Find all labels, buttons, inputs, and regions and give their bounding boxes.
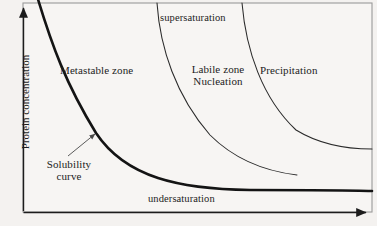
y-axis-title: Protein concentration [19,32,31,172]
annotation-solubility-curve: Solubility curve [38,158,100,183]
zone-label-undersaturation: undersaturation [148,193,215,205]
annotation-solubility-line1: Solubility [38,158,100,170]
zone-label-supersaturation: supersaturation [160,12,226,24]
zone-label-labile-line1: Labile zone [178,63,258,75]
annotation-solubility-line2: curve [38,170,100,182]
phase-diagram-figure: Protein concentration supersaturation Me… [0,0,377,226]
zone-label-labile-line2: Nucleation [178,75,258,87]
zone-label-labile-zone: Labile zone Nucleation [178,63,258,88]
zone-label-metastable-zone: Metastable zone [60,64,133,76]
zone-label-precipitation: Precipitation [260,64,318,76]
